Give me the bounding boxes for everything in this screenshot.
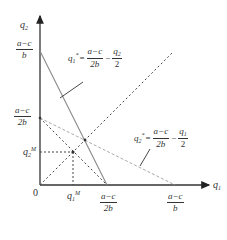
x-tick-q1-monopoly: q1M [67,190,80,202]
y-tick-a-c-over-2b: a−c2b [14,106,31,128]
reaction2-pointer [140,149,150,166]
diagonal-dotted-line [40,52,173,185]
monopoly-point [71,150,74,153]
reaction-function-firm2-label: q2* = a−c2b − q12 [134,127,190,150]
x-axis-label: q1 [213,180,221,191]
reaction-function-firm1-label: q1* = a−c2b − q22 [68,47,124,70]
origin-label: 0 [33,188,38,198]
y-tick-a-c-over-b: a−cb [16,39,33,61]
nash-equilibrium-point [84,139,87,142]
x-tick-a-c-over-b: a−cb [167,192,184,214]
y-axis-label: q2 [20,20,28,31]
y-tick-q2-monopoly: q2M [23,146,36,158]
x-tick-a-c-over-2b: a−c2b [100,192,117,214]
y-intercept-point [39,117,42,120]
reaction1-pointer [60,82,83,98]
